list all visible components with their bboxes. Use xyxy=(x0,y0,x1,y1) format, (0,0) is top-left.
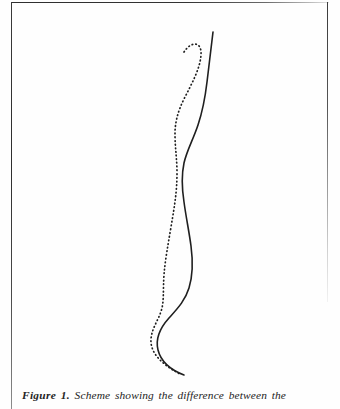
figure-artwork xyxy=(12,3,328,381)
figure-caption: Figure 1. Scheme showing the difference … xyxy=(22,388,319,402)
figure-caption-text: Scheme showing the difference between th… xyxy=(75,389,286,401)
solid-curve xyxy=(157,32,213,375)
figure-caption-label: Figure 1. xyxy=(22,389,70,401)
scheme-diagram xyxy=(12,3,328,381)
scanned-page: Figure 1. Scheme showing the difference … xyxy=(0,0,340,409)
dotted-curve xyxy=(151,44,201,374)
